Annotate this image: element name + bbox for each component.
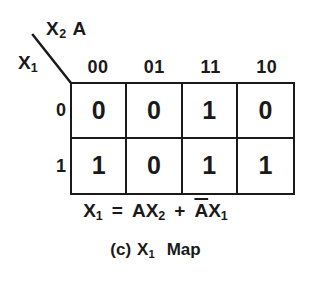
row-header-0: 0 bbox=[44, 82, 66, 139]
figure-caption: (c)X1Map bbox=[0, 240, 311, 260]
column-header-00: 00 bbox=[70, 57, 126, 78]
equation-equals: = bbox=[112, 200, 123, 221]
column-header-01: 01 bbox=[126, 57, 182, 78]
row-variable-sub: 1 bbox=[31, 61, 38, 75]
column-header-10: 10 bbox=[239, 57, 295, 78]
column-variable-sub: 2 bbox=[59, 27, 66, 41]
kmap-cell-r1c01: 0 bbox=[127, 139, 182, 194]
equation-term1-x: X bbox=[146, 200, 159, 221]
equation-term2-a-complement: A bbox=[194, 200, 208, 221]
equation-term1-sub: 2 bbox=[158, 209, 165, 223]
caption-prefix: (c) bbox=[110, 240, 131, 259]
kmap-cell-r1c00: 1 bbox=[72, 139, 127, 194]
karnaugh-map-figure: X2 A X1 00 01 11 10 0 1 0 0 1 0 1 0 1 1 … bbox=[0, 0, 311, 282]
row-variable-main: X bbox=[18, 52, 31, 73]
column-header-11: 11 bbox=[183, 57, 239, 78]
kmap-cell-r1c10: 1 bbox=[238, 139, 293, 194]
equation-term2-sub: 1 bbox=[221, 209, 228, 223]
row-variable-label: X1 bbox=[18, 52, 38, 74]
column-variable-main: X bbox=[46, 18, 59, 39]
axis-corner-header: X2 A X1 bbox=[18, 16, 76, 86]
column-variable-second: A bbox=[72, 18, 86, 39]
column-header-row: 00 01 11 10 bbox=[70, 57, 295, 78]
caption-variable-sub: 1 bbox=[148, 248, 154, 260]
equation-lhs-sub: 1 bbox=[96, 209, 103, 223]
equation-plus: + bbox=[174, 200, 185, 221]
kmap-grid: 0 0 1 0 1 0 1 1 bbox=[70, 82, 295, 195]
equation-term1-a: A bbox=[132, 200, 146, 221]
kmap-cell-r0c10: 0 bbox=[238, 84, 293, 139]
kmap-cell-r0c00: 0 bbox=[72, 84, 127, 139]
caption-suffix: Map bbox=[167, 240, 201, 259]
boolean-equation: X1=AX2+AX1 bbox=[0, 200, 311, 222]
caption-variable: X bbox=[137, 240, 148, 259]
kmap-cell-r1c11: 1 bbox=[183, 139, 238, 194]
row-header-column: 0 1 bbox=[44, 82, 66, 195]
equation-term2-x: X bbox=[208, 200, 221, 221]
kmap-cell-r0c01: 0 bbox=[127, 84, 182, 139]
row-header-1: 1 bbox=[44, 139, 66, 196]
kmap-cell-r0c11: 1 bbox=[183, 84, 238, 139]
equation-lhs-var: X bbox=[83, 200, 96, 221]
column-variable-label: X2 A bbox=[46, 18, 87, 40]
